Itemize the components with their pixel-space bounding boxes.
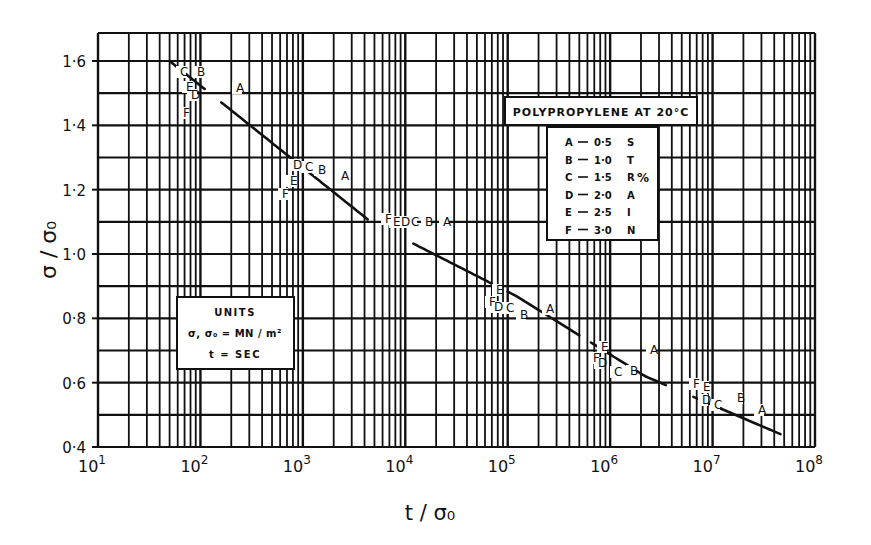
legend-value: 1·5 xyxy=(594,172,612,183)
title-box: POLYPROPYLENE AT 20°C xyxy=(505,97,697,125)
strain-label-e: E xyxy=(290,174,298,188)
strain-label-b: B xyxy=(737,391,745,405)
units-box: UNITS σ, σ₀ = MN / m² t = SEC xyxy=(177,297,294,369)
legend-value: 2·0 xyxy=(594,190,612,201)
x-tick-label: 108 xyxy=(795,453,823,476)
strain-label-f: F xyxy=(282,187,289,201)
x-tick-label: 106 xyxy=(590,453,618,476)
units-title: UNITS xyxy=(214,307,256,318)
x-tick-label: 104 xyxy=(385,453,413,476)
strain-label-f: F xyxy=(183,106,190,120)
strain-label-c: C xyxy=(714,398,722,412)
strain-label-b: B xyxy=(425,215,433,229)
strain-label-b: B xyxy=(197,65,205,79)
title-box-text: POLYPROPYLENE AT 20°C xyxy=(513,106,690,119)
strain-label-c: C xyxy=(411,215,419,229)
x-tick-label: 103 xyxy=(283,453,311,476)
strain-legend: A0·5SB1·0TC1·5RD2·0AE2·5IF3·0N% xyxy=(547,127,658,240)
strain-label-f: F xyxy=(385,212,392,226)
legend-value: 2·5 xyxy=(594,207,612,218)
strain-label-d: D xyxy=(598,356,607,370)
legend-key-e: E xyxy=(565,207,572,218)
legend-key-b: B xyxy=(565,155,573,166)
legend-value: 3·0 xyxy=(594,225,612,236)
strain-label-a: A xyxy=(341,169,350,183)
legend-value: 1·0 xyxy=(594,155,612,166)
y-tick-label: 1·2 xyxy=(62,182,86,200)
legend-strain-letter: A xyxy=(627,190,635,201)
y-tick-label: 0·6 xyxy=(62,375,86,393)
strain-label-c: C xyxy=(180,65,188,79)
x-tick-label: 107 xyxy=(693,453,721,476)
strain-label-e: E xyxy=(393,215,401,229)
x-tick-label: 105 xyxy=(488,453,516,476)
x-tick-label: 102 xyxy=(180,453,208,476)
units-line-stress: σ, σ₀ = MN / m² xyxy=(188,328,282,339)
strain-label-e: E xyxy=(703,380,711,394)
y-axis-label-text: σ / σ₀ xyxy=(36,221,61,279)
legend-key-c: C xyxy=(565,172,572,183)
legend-key-d: D xyxy=(565,190,573,201)
y-tick-label: 0·4 xyxy=(62,439,86,457)
y-tick-label: 1·4 xyxy=(62,117,86,135)
strain-label-a: A xyxy=(236,81,245,95)
x-axis-tick-labels: 101102103104105106107108 xyxy=(78,453,823,476)
strain-label-c: C xyxy=(506,301,514,315)
legend-strain-letter: R xyxy=(627,172,635,183)
y-axis-tick-labels: 0·40·60·81·01·21·41·6 xyxy=(62,53,86,457)
strain-label-d: D xyxy=(494,300,503,314)
x-axis-label: t / σ₀ xyxy=(405,501,455,525)
legend-percent-symbol: % xyxy=(637,171,649,185)
legend-strain-letter: I xyxy=(627,207,631,218)
x-tick-label: 101 xyxy=(78,453,106,476)
strain-label-d: D xyxy=(191,88,200,102)
strain-label-a: A xyxy=(546,302,555,316)
strain-label-b: B xyxy=(630,364,638,378)
y-tick-label: 1·0 xyxy=(62,246,86,264)
legend-strain-letter: N xyxy=(627,225,635,236)
strain-label-a: A xyxy=(650,343,659,357)
legend-strain-letter: S xyxy=(627,137,634,148)
strain-label-d: D xyxy=(401,215,410,229)
strain-label-c: C xyxy=(305,160,313,174)
creep-master-curve-chart: CBAEDFDCBAEFFEDCBAEFDCBAEFDCBAFEDCBA 0·4… xyxy=(0,0,871,545)
strain-label-d: D xyxy=(702,393,711,407)
curve-segment xyxy=(413,244,491,284)
units-line-time: t = SEC xyxy=(209,349,261,360)
strain-label-a: A xyxy=(758,403,767,417)
y-tick-label: 1·6 xyxy=(62,53,86,71)
legend-strain-letter: T xyxy=(627,155,634,166)
strain-label-d: D xyxy=(293,158,302,172)
legend-key-a: A xyxy=(565,137,573,148)
strain-label-e: E xyxy=(496,283,504,297)
strain-label-f: F xyxy=(693,377,700,391)
y-axis-label: σ / σ₀ xyxy=(36,221,61,279)
legend-key-f: F xyxy=(565,225,572,236)
strain-label-a: A xyxy=(443,215,452,229)
legend-value: 0·5 xyxy=(594,137,612,148)
strain-label-c: C xyxy=(614,365,622,379)
y-tick-label: 0·8 xyxy=(62,310,86,328)
strain-label-b: B xyxy=(520,308,528,322)
strain-label-e: E xyxy=(601,340,609,354)
strain-label-b: B xyxy=(318,163,326,177)
